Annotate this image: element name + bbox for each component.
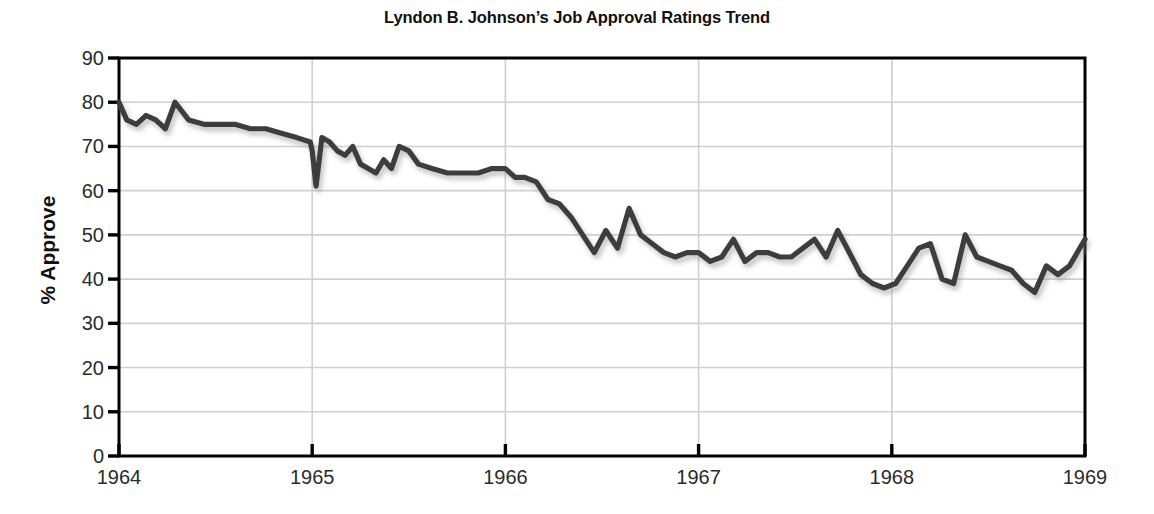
plot-area (0, 0, 1154, 514)
chart-container: Lyndon B. Johnson’s Job Approval Ratings… (0, 0, 1154, 514)
plot-background (119, 58, 1085, 456)
